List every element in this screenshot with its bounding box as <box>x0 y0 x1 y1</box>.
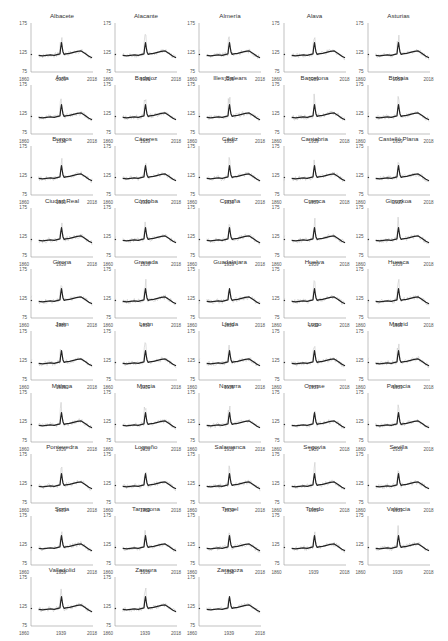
reference-series-line <box>115 486 116 487</box>
reference-series-line <box>375 289 428 304</box>
y-tick-label: 125 <box>92 50 111 55</box>
y-tick-label: 75 <box>176 623 195 628</box>
x-tick-label: 1939 <box>221 631 237 636</box>
chart-panel: Bizkaia17512575186019392018 <box>337 62 437 124</box>
y-tick-label: 175 <box>176 513 195 518</box>
reference-series-line <box>368 486 369 487</box>
y-tick-label: 125 <box>8 50 27 55</box>
reference-series-line <box>31 547 32 548</box>
y-tick-label: 175 <box>92 513 111 518</box>
chart-panel: Huesca17512575186019392018 <box>337 246 437 308</box>
y-tick-label: 175 <box>8 452 27 457</box>
y-tick-label: 175 <box>8 329 27 334</box>
reference-series-line <box>31 609 32 610</box>
reference-series-line <box>375 166 428 181</box>
reference-series-line <box>199 54 200 55</box>
reference-series-line <box>31 424 32 425</box>
chart-panel: València17512575186019392018 <box>337 493 437 555</box>
y-tick-label: 175 <box>176 390 195 395</box>
y-tick-label: 125 <box>345 419 364 424</box>
y-tick-label: 125 <box>176 50 195 55</box>
reference-series-line <box>375 227 428 242</box>
reference-series-line <box>31 301 32 302</box>
reference-series-line <box>199 486 200 487</box>
y-tick-label: 175 <box>345 390 364 395</box>
y-tick-label: 125 <box>8 358 27 363</box>
y-tick-label: 125 <box>8 481 27 486</box>
panel-title: Zaragoza <box>198 566 262 573</box>
y-tick-label: 175 <box>261 205 280 210</box>
reference-series-line <box>31 54 32 55</box>
y-tick-label: 175 <box>92 390 111 395</box>
panel-title: Gipuzkoa <box>367 197 431 204</box>
y-tick-label: 175 <box>92 452 111 457</box>
reference-series-line <box>368 239 369 240</box>
y-tick-label: 125 <box>176 173 195 178</box>
reference-series-line <box>368 362 369 363</box>
reference-series-line <box>115 362 116 363</box>
y-tick-label: 175 <box>8 575 27 580</box>
y-tick-label: 125 <box>176 358 195 363</box>
chart-panel: Gipuzkoa17512575186019392018 <box>337 185 437 247</box>
y-tick-label: 175 <box>92 329 111 334</box>
reference-series-line <box>115 547 116 548</box>
reference-series-line <box>375 474 428 489</box>
province-series-line <box>375 35 428 60</box>
y-tick-label: 175 <box>176 205 195 210</box>
y-tick-label: 125 <box>176 296 195 301</box>
panel-title: Palencia <box>367 382 431 389</box>
y-tick-label: 175 <box>261 329 280 334</box>
chart-panel: Madrid17512575186019392018 <box>337 308 437 370</box>
reference-series-line <box>115 116 116 117</box>
y-tick-label: 125 <box>261 111 280 116</box>
reference-series-line <box>368 547 369 548</box>
y-tick-label: 175 <box>92 267 111 272</box>
reference-series-line <box>115 178 116 179</box>
y-tick-label: 125 <box>261 234 280 239</box>
y-tick-label: 175 <box>176 575 195 580</box>
y-tick-label: 175 <box>92 205 111 210</box>
y-tick-label: 125 <box>8 173 27 178</box>
y-tick-label: 125 <box>8 111 27 116</box>
x-tick-label: 1939 <box>306 570 322 575</box>
reference-series-line <box>368 54 369 55</box>
reference-series-line <box>199 424 200 425</box>
y-tick-label: 175 <box>345 267 364 272</box>
reference-series-line <box>284 486 285 487</box>
y-tick-label: 175 <box>92 144 111 149</box>
reference-series-line <box>199 301 200 302</box>
reference-series-line <box>368 301 369 302</box>
reference-series-line <box>368 178 369 179</box>
y-tick-label: 175 <box>261 82 280 87</box>
reference-series-line <box>375 535 428 550</box>
reference-series-line <box>368 116 369 117</box>
reference-series-line <box>284 547 285 548</box>
x-tick-label: 1939 <box>390 570 406 575</box>
reference-series-line <box>284 424 285 425</box>
province-series-line <box>207 598 260 613</box>
y-tick-label: 75 <box>92 623 111 628</box>
reference-series-line <box>375 43 428 58</box>
y-tick-label: 125 <box>345 481 364 486</box>
y-tick-label: 175 <box>345 144 364 149</box>
chart-panel: Palencia17512575186019392018 <box>337 370 437 432</box>
y-tick-label: 125 <box>345 111 364 116</box>
y-tick-label: 125 <box>345 296 364 301</box>
chart-panel: Asturias17512575186019392018 <box>337 0 437 62</box>
y-tick-label: 175 <box>345 21 364 26</box>
y-tick-label: 125 <box>261 481 280 486</box>
y-tick-label: 175 <box>92 575 111 580</box>
x-tick-label: 1860 <box>100 631 116 636</box>
y-tick-label: 125 <box>261 542 280 547</box>
reference-series-line <box>199 116 200 117</box>
reference-series-line <box>31 362 32 363</box>
reference-series-line <box>31 239 32 240</box>
y-tick-label: 175 <box>8 513 27 518</box>
y-tick-label: 175 <box>8 82 27 87</box>
y-tick-label: 125 <box>8 419 27 424</box>
reference-series-line <box>115 424 116 425</box>
small-multiples-grid: Albacete17512575186019392018Alacante1751… <box>0 0 448 641</box>
reference-series-line <box>284 301 285 302</box>
y-tick-label: 175 <box>345 205 364 210</box>
reference-series-line <box>199 178 200 179</box>
